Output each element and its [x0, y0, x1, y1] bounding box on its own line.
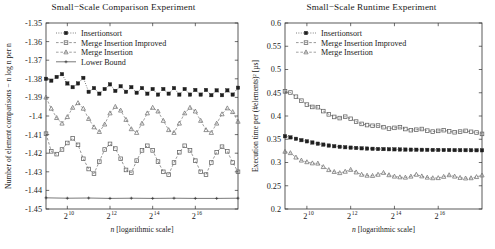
chart-canvas-runtime: 0.60.550.50.450.40.350.30.250.2210212214… — [248, 0, 495, 249]
y-tick-label: 0.25 — [267, 182, 281, 191]
chart-panel-runtime: Small−Scale Runtime Experiment 0.60.550.… — [248, 0, 495, 249]
series-merge-insertion — [283, 149, 484, 180]
x-tick-label: 2 — [149, 212, 153, 221]
figure-root: Small−Scale Comparison Experiment -1.35-… — [0, 0, 495, 249]
y-tick-label: 0.3 — [271, 158, 281, 167]
y-tick-label: -1.36 — [25, 38, 42, 47]
y-tick-label: -1.42 — [25, 149, 42, 158]
series-insertionsort — [283, 135, 483, 152]
x-axis-label: n [logarithmic scale] — [111, 225, 174, 234]
series-merge-insertion-improved — [44, 132, 240, 177]
chart-canvas-comparison: -1.35-1.36-1.37-1.38-1.39-1.4-1.41-1.42-… — [0, 0, 247, 249]
x-tick-exponent: 12 — [111, 210, 117, 216]
legend-label: Merge Insertion Improved — [81, 39, 166, 48]
x-tick-label: 2 — [347, 212, 351, 221]
x-tick-exponent: 16 — [197, 210, 203, 216]
series-merge-insertion — [44, 95, 240, 134]
legend: InsertionsortMerge Insertion ImprovedMer… — [56, 29, 166, 67]
y-tick-label: 0.55 — [267, 42, 281, 51]
legend: InsertionsortMerge Insertion ImprovedMer… — [296, 29, 406, 57]
y-tick-label: -1.37 — [25, 56, 42, 65]
x-tick-exponent: 14 — [396, 210, 402, 216]
y-axis-label: Execution time per (#elements)² [µs] — [251, 60, 260, 172]
series-insertionsort — [44, 72, 239, 96]
x-tick-label: 2 — [303, 212, 307, 221]
x-tick-exponent: 10 — [308, 210, 314, 216]
x-tick-exponent: 16 — [439, 210, 445, 216]
chart-panel-comparison: Small−Scale Comparison Experiment -1.35-… — [0, 0, 247, 249]
series-merge-insertion-improved — [283, 90, 484, 136]
legend-label: Insertionsort — [321, 29, 363, 38]
y-tick-label: -1.35 — [25, 19, 42, 28]
legend-label: Lower Bound — [81, 58, 126, 67]
legend-label: Insertionsort — [81, 29, 123, 38]
y-tick-label: 0.4 — [271, 112, 281, 121]
y-tick-label: -1.45 — [25, 205, 42, 214]
x-tick-label: 2 — [435, 212, 439, 221]
y-tick-label: -1.39 — [25, 93, 42, 102]
x-tick-exponent: 14 — [154, 210, 160, 216]
x-tick-exponent: 12 — [352, 210, 358, 216]
x-tick-label: 2 — [106, 212, 110, 221]
x-tick-label: 2 — [192, 212, 196, 221]
y-tick-label: 0.2 — [271, 205, 281, 214]
y-tick-label: -1.44 — [25, 186, 42, 195]
y-tick-label: -1.43 — [25, 168, 42, 177]
y-tick-label: 0.35 — [267, 135, 281, 144]
series-lower-bound — [45, 196, 240, 200]
x-tick-exponent: 10 — [69, 210, 75, 216]
y-tick-label: 0.5 — [271, 65, 281, 74]
y-tick-label: -1.38 — [25, 75, 42, 84]
x-tick-label: 2 — [64, 212, 68, 221]
x-axis-label: n [logarithmic scale] — [352, 225, 415, 234]
x-tick-label: 2 — [391, 212, 395, 221]
legend-label: Merge Insertion — [321, 48, 373, 57]
legend-label: Merge Insertion — [81, 48, 133, 57]
y-tick-label: 0.6 — [271, 19, 281, 28]
y-axis-label: Number of element comparisons − n log n … — [4, 43, 13, 189]
legend-label: Merge Insertion Improved — [321, 39, 406, 48]
y-tick-label: -1.4 — [29, 112, 42, 121]
y-tick-label: 0.45 — [267, 89, 281, 98]
y-tick-label: -1.41 — [25, 131, 42, 140]
